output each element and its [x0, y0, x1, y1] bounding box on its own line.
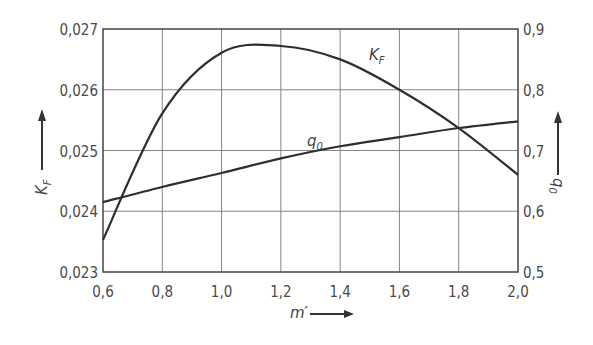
left-axis-label: KF	[33, 179, 53, 195]
grid-lines	[103, 29, 518, 272]
left-tick-label: 0,026	[59, 82, 98, 100]
left-axis-arrow-icon	[38, 109, 46, 170]
left-tick-label: 0,023	[59, 264, 98, 282]
x-tick-label: 1,4	[329, 283, 350, 301]
x-axis-label: m′	[290, 304, 309, 322]
x-axis-arrow-icon	[310, 310, 354, 318]
left-tick-label: 0,024	[59, 203, 98, 221]
x-tick-label: 1,6	[389, 283, 410, 301]
right-axis-arrow-icon	[554, 111, 562, 175]
right-tick-label: 0,6	[523, 203, 544, 221]
right-axis-label: q0	[547, 178, 567, 194]
x-tick-label: 0,8	[152, 283, 173, 301]
right-axis-ticks: 0,50,60,70,80,9	[523, 21, 544, 282]
x-tick-label: 0,6	[92, 283, 113, 301]
x-axis-ticks: 0,60,81,01,21,41,61,82,0	[92, 283, 528, 301]
x-tick-label: 1,2	[270, 283, 291, 301]
dual-axis-line-chart: 0,60,81,01,21,41,61,82,0 0,0230,0240,025…	[0, 0, 593, 345]
x-tick-label: 2,0	[507, 283, 528, 301]
right-tick-label: 0,9	[523, 21, 544, 39]
q0-curve-label: q0	[307, 132, 323, 152]
right-tick-label: 0,7	[523, 143, 544, 161]
right-tick-label: 0,8	[523, 82, 544, 100]
left-tick-label: 0,025	[59, 143, 98, 161]
x-tick-label: 1,0	[211, 283, 232, 301]
left-tick-label: 0,027	[59, 21, 98, 39]
left-axis-ticks: 0,0230,0240,0250,0260,027	[59, 21, 98, 282]
x-tick-label: 1,8	[448, 283, 469, 301]
right-tick-label: 0,5	[523, 264, 544, 282]
kf-curve-label: KF	[369, 46, 385, 66]
